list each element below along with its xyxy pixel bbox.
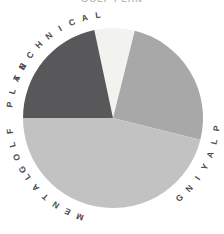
pie-chart-svg: [0, 0, 224, 234]
pie-slice-group: [23, 28, 203, 208]
pie-chart: [0, 0, 224, 234]
pie-chart-screenshot: GOLF PLAN GOLF PLAN TECHNICAL PLAYING ME…: [0, 0, 224, 234]
